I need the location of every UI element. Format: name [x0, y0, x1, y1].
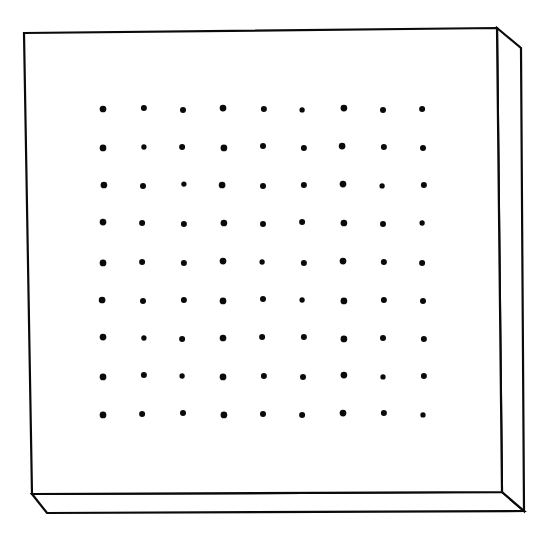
- perforation-dot: [420, 412, 425, 417]
- perforation-dot: [100, 334, 107, 341]
- perforation-dot: [261, 106, 267, 112]
- perforation-dot: [421, 336, 427, 342]
- slab-drawing: [0, 0, 552, 541]
- perforation-dot: [260, 296, 266, 302]
- perforation-dot: [181, 221, 187, 227]
- perforation-dot: [180, 107, 186, 113]
- perforation-dot: [420, 145, 426, 151]
- perforation-dot: [300, 374, 306, 380]
- perforation-dot: [299, 219, 305, 225]
- perforation-dot: [299, 412, 305, 418]
- perforation-dot: [141, 372, 147, 378]
- perforation-dot: [381, 297, 387, 303]
- perforation-dot: [260, 143, 266, 149]
- perforation-dot: [381, 144, 387, 150]
- perforation-dot: [419, 106, 425, 112]
- perforation-dot: [139, 259, 145, 265]
- perforation-dot: [181, 260, 187, 266]
- perforation-dot: [101, 182, 108, 189]
- perforation-dot: [221, 412, 228, 419]
- perforation-dot: [340, 410, 347, 417]
- perforation-dot: [141, 105, 147, 111]
- perforation-dot: [340, 258, 347, 265]
- perforation-dot: [100, 260, 107, 267]
- perforation-dot: [221, 220, 228, 227]
- perforation-dot: [380, 107, 386, 113]
- perforation-dot: [299, 107, 304, 112]
- perforation-dot: [260, 411, 266, 417]
- perforation-dot: [141, 335, 146, 340]
- perforation-dot: [379, 183, 384, 188]
- perforation-dot: [380, 374, 385, 379]
- perforation-dot: [301, 145, 307, 151]
- figure-canvas: [0, 0, 552, 541]
- perforation-dot: [100, 219, 107, 226]
- perforation-dot: [380, 335, 386, 341]
- perforation-dot: [299, 297, 304, 302]
- perforation-dot: [139, 411, 145, 417]
- perforation-dot: [140, 183, 146, 189]
- perforation-dot: [381, 410, 387, 416]
- perforation-dot: [220, 105, 227, 112]
- perforation-dot: [341, 105, 348, 112]
- perforation-dot: [301, 260, 307, 266]
- perforation-dot: [341, 336, 348, 343]
- perforation-dot: [220, 335, 227, 342]
- perforation-dot: [381, 259, 387, 265]
- perforation-dot: [179, 336, 185, 342]
- perforation-dot: [261, 373, 267, 379]
- perforation-dot: [100, 374, 107, 381]
- perforation-dot: [260, 221, 266, 227]
- perforation-dot: [380, 221, 386, 227]
- perforation-dot: [340, 181, 347, 188]
- perforation-dot: [259, 334, 265, 340]
- perforation-dot: [301, 182, 307, 188]
- perforation-dot: [220, 298, 227, 305]
- perforation-dot: [99, 297, 106, 304]
- perforation-dot: [179, 144, 185, 150]
- perforation-dot: [179, 373, 184, 378]
- bottom-face: [32, 492, 524, 513]
- perforation-dot: [219, 182, 226, 189]
- perforation-dot: [420, 298, 426, 304]
- perforation-dot: [419, 260, 425, 266]
- perforation-dot: [180, 410, 186, 416]
- perforation-dot: [140, 298, 146, 304]
- perforation-dot: [341, 298, 348, 305]
- perforation-dot: [181, 297, 187, 303]
- perforation-dot: [341, 220, 348, 227]
- perforation-dot: [181, 181, 186, 186]
- perforation-dot: [421, 182, 427, 188]
- perforation-dot: [421, 373, 427, 379]
- perforation-dot: [339, 143, 346, 150]
- perforation-dot: [220, 258, 227, 265]
- perforation-dot: [341, 372, 348, 379]
- perforation-dot: [100, 145, 107, 152]
- perforation-dot: [220, 374, 227, 381]
- perforation-dot: [221, 145, 228, 152]
- perforation-dot: [419, 220, 424, 225]
- perforation-dot: [141, 144, 146, 149]
- perforation-dot: [259, 259, 264, 264]
- perforation-dot: [301, 334, 307, 340]
- perforation-dot: [100, 106, 107, 113]
- perforation-dot: [139, 220, 145, 226]
- perforation-dot: [260, 183, 266, 189]
- perforation-dot: [100, 412, 107, 419]
